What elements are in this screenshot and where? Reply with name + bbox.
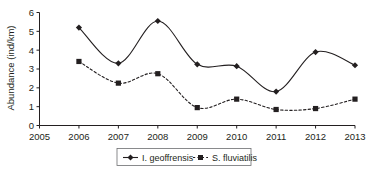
legend-items: I. geoffrensisS. fluviatilis <box>123 153 258 163</box>
data-point-2010-s-fluviatilis <box>234 97 239 102</box>
data-point-2011-i-geoffrensis <box>273 89 279 95</box>
chart-figure: Abundance (ind/km) 0123456 2005200620072… <box>0 0 368 172</box>
data-point-2009-s-fluviatilis <box>195 105 200 110</box>
series-line-s-fluviatilis <box>79 61 355 110</box>
y-tick-label-6: 6 <box>29 7 34 18</box>
data-point-2007-i-geoffrensis <box>115 60 121 66</box>
legend-marker-square <box>198 155 203 160</box>
x-tick-label-2011: 2011 <box>266 131 286 142</box>
data-point-2006-s-fluviatilis <box>76 59 81 64</box>
x-tick-label-2008: 2008 <box>147 131 168 142</box>
y-axis-tick-labels: 0123456 <box>29 7 34 131</box>
legend-label-s-fluviatilis: S. fluviatilis <box>212 153 258 163</box>
y-tick-label-3: 3 <box>29 63 34 74</box>
x-tick-label-2013: 2013 <box>344 131 365 142</box>
x-tick-label-2012: 2012 <box>305 131 326 142</box>
data-point-2010-i-geoffrensis <box>234 63 240 69</box>
x-tick-label-2006: 2006 <box>68 131 89 142</box>
y-tick-label-1: 1 <box>29 101 34 112</box>
y-axis-title: Abundance (ind/km) <box>5 25 16 110</box>
data-point-2011-s-fluviatilis <box>274 107 279 112</box>
y-tick-label-4: 4 <box>29 45 34 56</box>
x-tick-label-2005: 2005 <box>29 131 50 142</box>
y-tick-label-5: 5 <box>29 26 34 37</box>
chart-legend: I. geoffrensisS. fluviatilis <box>117 149 258 166</box>
abundance-line-chart: Abundance (ind/km) 0123456 2005200620072… <box>0 0 368 172</box>
x-tick-label-2007: 2007 <box>108 131 129 142</box>
legend-label-i-geoffrensis: I. geoffrensis <box>142 153 194 163</box>
data-point-2008-s-fluviatilis <box>155 71 160 76</box>
y-tick-label-2: 2 <box>29 82 34 93</box>
x-axis-tick-labels: 200520062007200820092010201120122013 <box>29 131 366 142</box>
data-point-2013-s-fluviatilis <box>352 97 357 102</box>
data-point-2013-i-geoffrensis <box>352 62 358 68</box>
x-tick-label-2010: 2010 <box>226 131 247 142</box>
data-point-2012-s-fluviatilis <box>313 106 318 111</box>
data-point-2012-i-geoffrensis <box>312 49 318 55</box>
y-tick-label-0: 0 <box>29 120 34 131</box>
data-point-2008-i-geoffrensis <box>155 18 161 24</box>
data-point-2007-s-fluviatilis <box>116 81 121 86</box>
x-tick-label-2009: 2009 <box>187 131 208 142</box>
